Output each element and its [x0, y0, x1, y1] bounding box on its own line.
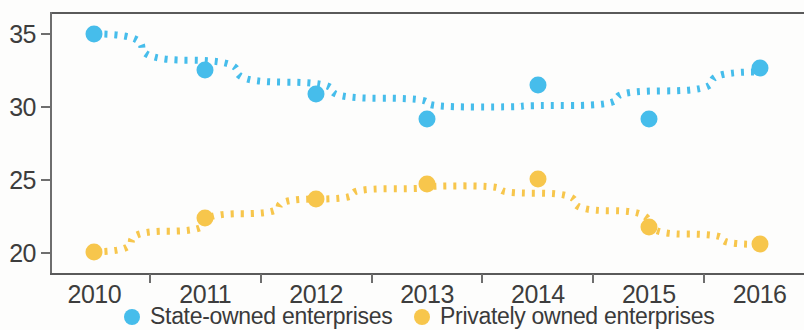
data-point[interactable] — [308, 191, 325, 208]
legend-item-state-owned[interactable]: State-owned enterprises — [124, 303, 392, 330]
x-axis-tick — [260, 274, 262, 283]
y-axis-tick-label: 25 — [9, 166, 36, 195]
x-axis-tick — [592, 274, 594, 283]
data-point[interactable] — [419, 176, 436, 193]
data-point[interactable] — [197, 62, 214, 79]
data-point[interactable] — [640, 218, 657, 235]
data-point[interactable] — [197, 210, 214, 227]
data-point[interactable] — [86, 25, 103, 42]
legend-label: Privately owned enterprises — [440, 303, 714, 330]
trendline-layer — [50, 12, 804, 275]
data-point[interactable] — [751, 59, 768, 76]
y-axis-tick: 25 — [41, 179, 50, 181]
chart-container: 35302520 2010201120122013201420152016 St… — [0, 0, 804, 330]
trendline-privately-owned — [94, 186, 759, 252]
y-axis-tick-label: 30 — [9, 92, 36, 121]
y-axis-tick-label: 35 — [9, 19, 36, 48]
x-axis-tick — [149, 274, 151, 283]
plot-area: 35302520 2010201120122013201420152016 — [50, 12, 804, 275]
x-axis-tick — [703, 274, 705, 283]
legend-swatch-icon — [414, 309, 430, 325]
legend-item-privately-owned[interactable]: Privately owned enterprises — [414, 303, 714, 330]
legend-swatch-icon — [124, 309, 140, 325]
y-axis-tick: 30 — [41, 106, 50, 108]
y-axis-tick: 35 — [41, 33, 50, 35]
y-axis-tick-label: 20 — [9, 239, 36, 268]
y-axis-tick: 20 — [41, 252, 50, 254]
data-point[interactable] — [751, 236, 768, 253]
x-axis-tick — [371, 274, 373, 283]
legend-label: State-owned enterprises — [150, 303, 392, 330]
data-point[interactable] — [419, 110, 436, 127]
data-point[interactable] — [308, 85, 325, 102]
data-point[interactable] — [529, 77, 546, 94]
data-point[interactable] — [86, 243, 103, 260]
x-axis-tick — [481, 274, 483, 283]
data-point[interactable] — [640, 110, 657, 127]
trendline-state-owned — [94, 34, 759, 107]
data-point[interactable] — [529, 170, 546, 187]
chart-legend: State-owned enterprises Privately owned … — [0, 303, 804, 330]
